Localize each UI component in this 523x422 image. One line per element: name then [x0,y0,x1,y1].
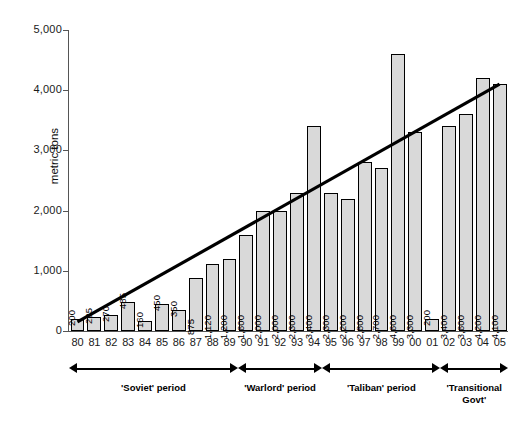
x-axis-tick-label: 05 [491,336,508,348]
bar[interactable]: 2,300 [290,193,304,331]
bar[interactable]: 4,600 [391,54,405,331]
y-axis-tick: 0 [0,331,62,332]
period-label: 'Taliban' period [322,382,440,394]
bar-slot: 200 [69,30,86,331]
bar-slot: 270 [103,30,120,331]
x-axis-tick-label: 81 [86,336,103,348]
bar-slot: 1,600 [238,30,255,331]
y-axis-tick-mark [63,150,68,151]
y-axis-tick-mark [63,30,68,31]
bar-slot: 2,700 [373,30,390,331]
y-axis-tick-mark [63,211,68,212]
bar[interactable]: 2,200 [341,199,355,331]
bar-slot: 3,400 [441,30,458,331]
bar[interactable]: 3,400 [307,126,321,331]
y-axis-tick-mark [63,271,68,272]
bar-value-label: 200 [421,310,432,326]
bar-slot: 350 [170,30,187,331]
bar[interactable]: 160 [138,321,152,331]
bar-value-label: 200 [66,310,77,326]
x-axis-tick-label: 92 [272,336,289,348]
bar-series: 2002252704851604503508751,1201,2001,6002… [69,30,508,331]
bar-slot: 4,200 [474,30,491,331]
x-axis-tick-label: 96 [339,336,356,348]
bar[interactable]: 2,000 [256,211,270,331]
x-axis-tick-label: 02 [441,336,458,348]
y-axis-tick-mark [63,331,68,332]
period-double-arrow-icon [69,362,238,376]
bar-slot: 2,800 [356,30,373,331]
bar-slot: 2,300 [322,30,339,331]
bar[interactable]: 3,400 [442,126,456,331]
period-annotations: 'Soviet' period'Warlord' period'Taliban'… [69,362,508,420]
y-axis-tick: 1,000 [0,271,62,272]
period-label: 'Soviet' period [69,382,238,394]
period-bracket: 'Soviet' period [69,362,238,420]
x-axis-tick-label: 86 [170,336,187,348]
x-axis-tick-label: 88 [204,336,221,348]
bar[interactable]: 450 [155,304,169,331]
x-axis-tick-label: 84 [137,336,154,348]
bar-value-label: 270 [100,306,111,322]
bar[interactable]: 875 [189,278,203,331]
bar[interactable]: 270 [104,315,118,331]
x-axis-tick-labels: 8081828384858687888990919293949596979899… [69,336,508,348]
y-axis-tick-label: 4,000 [16,84,62,95]
x-axis-tick-label: 98 [373,336,390,348]
bar[interactable]: 350 [172,310,186,331]
period-bracket: 'Taliban' period [322,362,440,420]
bar[interactable]: 2,800 [358,162,372,331]
x-axis-tick-label: 87 [187,336,204,348]
period-double-arrow-icon [440,362,508,376]
x-axis-tick-label: 83 [120,336,137,348]
bar-slot: 4,100 [491,30,508,331]
x-axis-tick-label: 82 [103,336,120,348]
x-axis-tick-label: 04 [474,336,491,348]
x-axis-tick-label: 97 [356,336,373,348]
bar-value-label: 450 [151,295,162,311]
y-axis-tick-mark [63,90,68,91]
x-axis-tick-label: 94 [305,336,322,348]
x-axis-tick-label: 93 [289,336,306,348]
bar[interactable]: 200 [425,319,439,331]
bar[interactable]: 4,100 [493,84,507,331]
chart-container: 5,0004,0003,0002,0001,0000 metric tons 2… [0,0,523,422]
period-bracket: 'Warlord' period [238,362,322,420]
bar-value-label: 225 [83,308,94,324]
y-axis-tick-label: 5,000 [16,24,62,35]
x-axis-tick-label: 80 [69,336,86,348]
period-bracket: 'TransitionalGovt' [440,362,508,420]
bar-value-label: 350 [168,301,179,317]
x-axis-tick-label: 03 [457,336,474,348]
period-double-arrow-icon [322,362,440,376]
bar[interactable]: 2,300 [324,193,338,331]
bar[interactable]: 3,600 [459,114,473,331]
bar-slot: 2,000 [255,30,272,331]
bar-slot: 450 [153,30,170,331]
y-axis-tick: 4,000 [0,90,62,91]
bar-slot: 1,120 [204,30,221,331]
plot-area: 2002252704851604503508751,1201,2001,6002… [69,30,508,331]
bar[interactable]: 3,300 [408,132,422,331]
bar-slot: 3,600 [457,30,474,331]
bar[interactable]: 2,000 [273,211,287,331]
bar-slot: 2,300 [289,30,306,331]
bar-value-label: 485 [117,293,128,309]
bar-slot: 3,400 [305,30,322,331]
x-axis-tick-label: 95 [322,336,339,348]
x-axis-tick-label: 91 [255,336,272,348]
x-axis-tick-label: 85 [153,336,170,348]
period-double-arrow-icon [238,362,322,376]
bar-slot: 4,600 [390,30,407,331]
bar[interactable]: 2,700 [375,168,389,331]
bar[interactable]: 4,200 [476,78,490,331]
bar-value-label: 875 [185,319,196,335]
bar[interactable]: 485 [121,302,135,331]
y-axis-tick-label: 0 [16,325,62,336]
x-axis-tick-label: 99 [390,336,407,348]
bar-slot: 875 [187,30,204,331]
x-axis-tick-label: 89 [221,336,238,348]
bar-slot: 200 [424,30,441,331]
x-axis-tick-label: 90 [238,336,255,348]
y-axis-tick: 5,000 [0,30,62,31]
